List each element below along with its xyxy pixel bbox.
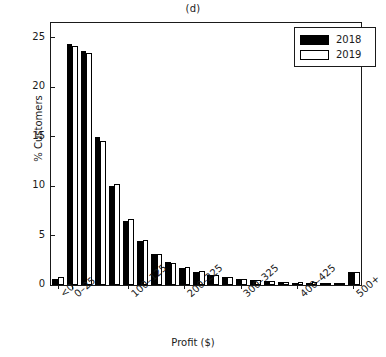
bar-group (264, 23, 275, 285)
bar-group (236, 23, 247, 285)
y-tick-mark (51, 37, 55, 38)
y-axis-label: % Customers (33, 84, 44, 174)
x-tick-mark (297, 285, 298, 289)
chart-title: (d) (0, 3, 386, 14)
y-tick-mark (51, 87, 55, 88)
x-tick-mark (241, 285, 242, 289)
bar-2019 (171, 263, 177, 285)
x-tick-mark (128, 285, 129, 289)
chart-figure: (d) 0510152025 <00–25100–125200–225300–3… (0, 0, 386, 357)
y-tick-mark (51, 235, 55, 236)
bar-group (81, 23, 92, 285)
legend-label: 2018 (336, 35, 361, 45)
y-tick-mark (51, 285, 55, 286)
bar-2019 (269, 281, 275, 285)
bar-group (95, 23, 106, 285)
y-tick-mark (51, 186, 55, 187)
bar-2019 (185, 267, 191, 285)
bar-group (67, 23, 78, 285)
x-tick-mark (72, 285, 73, 289)
bar-group (278, 23, 289, 285)
legend-swatch-icon (300, 35, 329, 45)
bar-group (137, 23, 148, 285)
bar-2019 (128, 219, 134, 285)
y-tick-label: 0 (39, 278, 45, 289)
legend-label: 2019 (336, 50, 361, 60)
bar-group (151, 23, 162, 285)
bar-2019 (283, 282, 289, 285)
bar-group (222, 23, 233, 285)
x-tick-mark (353, 285, 354, 289)
bar-2019 (354, 272, 360, 285)
bar-2019 (340, 283, 346, 285)
y-tick-label: 25 (32, 31, 45, 42)
bar-group (179, 23, 190, 285)
legend-item-2019[interactable]: 2019 (300, 47, 370, 62)
x-tick-mark (184, 285, 185, 289)
bar-2019 (227, 277, 233, 285)
bar-2019 (114, 184, 120, 285)
bar-group (193, 23, 204, 285)
bar-group (165, 23, 176, 285)
bar-2019 (100, 141, 106, 285)
legend-item-2018[interactable]: 2018 (300, 32, 370, 47)
bar-group (52, 23, 63, 285)
chart-legend: 20182019 (294, 27, 376, 67)
bar-group (123, 23, 134, 285)
y-tick-label: 5 (39, 229, 45, 240)
bar-group (109, 23, 120, 285)
y-tick-label: 10 (32, 179, 45, 190)
bar-group (207, 23, 218, 285)
bar-2019 (241, 279, 247, 285)
legend-swatch-icon (300, 50, 329, 60)
x-tick-mark (58, 285, 59, 289)
bar-2019 (58, 277, 64, 285)
x-axis-label: Profit ($) (0, 337, 386, 348)
bar-group (250, 23, 261, 285)
bar-2019 (86, 53, 92, 285)
y-tick-mark (51, 136, 55, 137)
bar-2019 (326, 283, 332, 285)
bar-2019 (298, 282, 304, 285)
bar-2019 (72, 46, 78, 285)
